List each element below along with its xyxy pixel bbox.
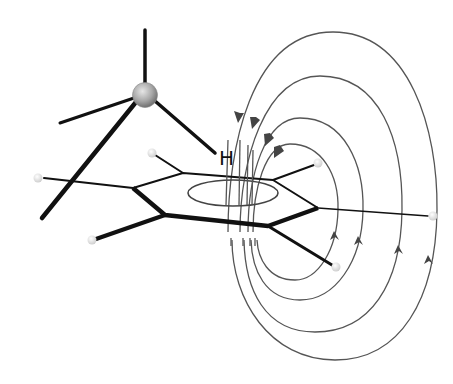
bond-c-h-lower-left [96, 215, 165, 239]
hydrogen-atom [88, 236, 97, 245]
bond-down-left [42, 102, 136, 218]
hydrogen-atoms [34, 149, 438, 272]
arrow-up-icon [424, 255, 433, 264]
bond-to-h [155, 101, 215, 153]
hydrogen-atom [148, 149, 157, 158]
hydrogen-atom [34, 174, 43, 183]
substituent-bonds [44, 153, 428, 265]
hydrogen-atom [429, 212, 438, 221]
ring-current-diagram: H [0, 0, 453, 384]
bond-c-h-upper-right [273, 165, 314, 180]
arrow-down-icon [250, 117, 260, 129]
arrow-down-icon [264, 133, 274, 146]
field-lines [228, 32, 437, 360]
field-segment [252, 150, 253, 205]
field-line-1 [228, 32, 437, 360]
hydrogen-label: H [219, 146, 234, 170]
ring-current-ellipse [188, 180, 278, 206]
arrow-down-icon [274, 145, 284, 158]
metal-atom [133, 83, 158, 108]
field-segment [239, 140, 240, 205]
hydrogen-atom [332, 263, 341, 272]
bond-c-h-top [152, 153, 183, 173]
bond-c-h-left [44, 178, 133, 188]
hydrogen-atom [314, 159, 323, 168]
bond-c-h-lower-right [268, 226, 332, 265]
field-segment [247, 145, 248, 205]
arrow-up-icon [394, 245, 403, 254]
bond-c-h-right [318, 208, 428, 216]
ring-front-edges [133, 188, 318, 226]
field-line-2 [240, 76, 402, 332]
